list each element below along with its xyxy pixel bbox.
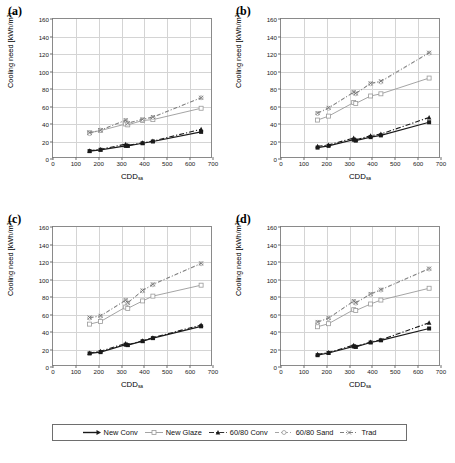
x-tick-label: 0 [51,160,54,167]
figure-root: (a)Cooling need [kWh/m2]CDDsa02040608010… [0,0,455,463]
legend-item-60-80-sand[interactable]: 60/80 Sand [275,428,334,437]
legend-marker-square-filled-icon [83,428,101,437]
x-tick-label: 200 [322,368,332,375]
y-tick-label: 140 [39,241,49,248]
legend-item-trad[interactable]: Trad [340,428,376,437]
x-tick-label: 200 [322,160,332,167]
x-tick-label: 600 [413,160,423,167]
x-tick-label: 300 [344,368,354,375]
plot-wrapper: 0204060801001201401600100200300400500600… [52,18,212,158]
y-axis-label: Cooling need [kWh/m2] [6,221,15,296]
y-tick-label: 20 [42,138,49,145]
x-tick-label: 600 [185,368,195,375]
plot-area: 0204060801001201401600100200300400500600… [52,226,212,366]
legend-item-60-80-conv[interactable]: 60/80 Conv [209,428,268,437]
x-tick-label: 0 [279,368,282,375]
plot-wrapper: 0204060801001201401600100200300400500600… [52,226,212,366]
legend-label: New Conv [104,428,138,437]
x-tick-label: 300 [116,160,126,167]
y-tick-label: 160 [39,224,49,231]
y-tick-label: 0 [46,364,49,371]
x-tick-label: 300 [344,160,354,167]
x-tick-label: 700 [436,160,446,167]
legend-label: New Glaze [166,428,202,437]
y-axis-label: Cooling need [kWh/m2] [234,13,243,88]
plot-wrapper: 0204060801001201401600100200300400500600… [280,18,440,158]
legend-item-new-conv[interactable]: New Conv [83,428,138,437]
x-tick-label: 200 [94,368,104,375]
legend-label: Trad [361,428,376,437]
y-tick-label: 140 [267,241,277,248]
y-tick-label: 100 [39,68,49,75]
legend-marker-triangle-filled-icon [209,428,227,437]
y-tick-label: 60 [270,311,277,318]
x-axis-label: CDDsa [52,380,212,389]
series-layer [53,227,213,367]
chart-legend: New ConvNew Glaze60/80 Conv60/80 SandTra… [52,424,407,441]
y-tick-label: 0 [46,156,49,163]
x-tick-label: 700 [208,160,218,167]
y-tick-label: 0 [274,156,277,163]
y-tick-label: 40 [42,329,49,336]
x-tick-label: 700 [208,368,218,375]
x-tick-label: 400 [367,160,377,167]
legend-label: 60/80 Sand [296,428,334,437]
y-tick-label: 120 [39,259,49,266]
x-tick-label: 100 [299,160,309,167]
y-tick-label: 140 [39,33,49,40]
y-tick-label: 20 [270,138,277,145]
x-tick-label: 600 [185,160,195,167]
x-tick-label: 600 [413,368,423,375]
x-tick-label: 400 [139,160,149,167]
x-tick-label: 0 [51,368,54,375]
y-tick-label: 120 [267,51,277,58]
x-tick-label: 500 [162,160,172,167]
y-axis-label: Cooling need [kWh/m2] [234,221,243,296]
y-tick-label: 60 [42,103,49,110]
legend-marker-square-open-icon [145,428,163,437]
y-tick-label: 160 [267,224,277,231]
y-tick-label: 60 [42,311,49,318]
x-tick-label: 200 [94,160,104,167]
chart-panel-a: (a)Cooling need [kWh/m2]CDDsa02040608010… [0,0,227,207]
legend-label: 60/80 Conv [230,428,268,437]
chart-panel-d: (d)Cooling need [kWh/m2]CDDsa02040608010… [228,208,455,415]
x-axis-label: CDDsa [52,172,212,181]
series-layer [53,19,213,159]
y-tick-label: 100 [267,68,277,75]
x-tick-label: 400 [367,368,377,375]
series-layer [281,19,441,159]
y-tick-label: 120 [267,259,277,266]
y-tick-label: 20 [270,346,277,353]
y-tick-label: 80 [42,294,49,301]
y-tick-label: 40 [270,121,277,128]
y-tick-label: 0 [274,364,277,371]
chart-panel-c: (c)Cooling need [kWh/m2]CDDsa02040608010… [0,208,227,415]
x-tick-label: 700 [436,368,446,375]
y-tick-label: 80 [270,294,277,301]
x-axis-label: CDDsa [280,380,440,389]
y-tick-label: 60 [270,103,277,110]
x-tick-label: 400 [139,368,149,375]
x-tick-label: 300 [116,368,126,375]
x-tick-label: 500 [390,368,400,375]
y-tick-label: 80 [42,86,49,93]
chart-panel-b: (b)Cooling need [kWh/m2]CDDsa02040608010… [228,0,455,207]
y-tick-label: 100 [39,276,49,283]
y-tick-label: 160 [267,16,277,23]
x-tick-label: 100 [71,368,81,375]
plot-area: 0204060801001201401600100200300400500600… [280,18,440,158]
plot-wrapper: 0204060801001201401600100200300400500600… [280,226,440,366]
legend-marker-circle-open-icon [275,428,293,437]
legend-marker-cross-x-icon [340,428,358,437]
y-tick-label: 40 [42,121,49,128]
y-tick-label: 140 [267,33,277,40]
x-axis-label: CDDsa [280,172,440,181]
x-tick-label: 100 [299,368,309,375]
legend-item-new-glaze[interactable]: New Glaze [145,428,202,437]
x-tick-label: 500 [162,368,172,375]
series-layer [281,227,441,367]
y-tick-label: 160 [39,16,49,23]
y-tick-label: 100 [267,276,277,283]
y-tick-label: 20 [42,346,49,353]
